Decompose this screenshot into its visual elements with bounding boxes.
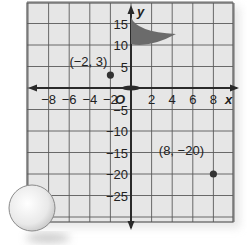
- y-tick-label: −15: [106, 146, 128, 161]
- x-tick-label: 4: [169, 92, 176, 107]
- point-label: (−2, 3): [69, 54, 107, 69]
- origin-label: O: [115, 92, 125, 107]
- x-tick-label: 2: [148, 92, 155, 107]
- y-tick-label: −10: [106, 124, 128, 139]
- ball-shadow: [26, 233, 70, 243]
- flag-hole: [122, 85, 140, 90]
- plotted-point: [210, 170, 217, 177]
- y-tick-label: 10: [114, 38, 128, 53]
- coordinate-plane-svg: −8−6−4−22468 15105−5−10−15−20−25 x y O (…: [0, 0, 247, 249]
- coordinate-plane-figure: −8−6−4−22468 15105−5−10−15−20−25 x y O (…: [0, 0, 247, 249]
- golf-ball: [9, 185, 55, 231]
- x-tick-label: −8: [41, 92, 56, 107]
- y-tick-label: 5: [121, 60, 128, 75]
- point-label: (8, −20): [159, 143, 204, 158]
- x-tick-label: 6: [189, 92, 196, 107]
- y-axis-label: y: [136, 4, 145, 19]
- x-tick-label: 8: [210, 92, 217, 107]
- plotted-point: [107, 72, 114, 79]
- x-tick-label: −6: [62, 92, 77, 107]
- x-tick-label: −4: [82, 92, 97, 107]
- x-axis-label: x: [224, 92, 233, 107]
- y-tick-label: −20: [106, 167, 128, 182]
- y-tick-label: 15: [114, 17, 128, 32]
- y-tick-label: −25: [106, 189, 128, 204]
